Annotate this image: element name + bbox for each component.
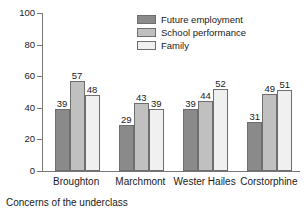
chart-legend: Future employmentSchool performanceFamil…: [137, 13, 297, 52]
y-axis-tick-mark: [37, 76, 42, 77]
bar[interactable]: 43: [134, 103, 149, 171]
x-axis-category-label: Wester Hailes: [174, 175, 236, 188]
x-axis-category-label: Corstorphine: [240, 175, 297, 188]
y-axis-tick-mark: [37, 139, 42, 140]
bar-value-label: 44: [200, 90, 211, 101]
y-axis-tick-label: 40: [24, 102, 35, 113]
y-axis-tick-mark: [37, 108, 42, 109]
legend-item[interactable]: Family: [137, 39, 297, 51]
bar[interactable]: 39: [55, 109, 70, 171]
bar-chart-figure: 020406080100 395748294339394452314951 Br…: [0, 0, 307, 216]
y-axis-tick-mark: [37, 171, 42, 172]
bar-value-label: 39: [151, 98, 162, 109]
legend-swatch: [137, 15, 156, 24]
bar-value-label: 29: [121, 114, 132, 125]
x-axis-line: [42, 171, 300, 172]
chart-caption: Concerns of the underclass: [6, 196, 128, 209]
y-axis-tick-label: 20: [24, 133, 35, 144]
bar-group: 395748: [55, 13, 100, 171]
legend-label: Future employment: [161, 14, 243, 25]
legend-item[interactable]: School performance: [137, 26, 297, 38]
bar[interactable]: 31: [247, 122, 262, 171]
legend-label: Family: [161, 40, 189, 51]
y-axis-tick-label: 100: [19, 7, 35, 18]
bar[interactable]: 52: [213, 89, 228, 171]
bar-value-label: 43: [136, 92, 147, 103]
bar-value-label: 39: [57, 98, 68, 109]
bar-value-label: 48: [87, 84, 98, 95]
y-axis-tick-mark: [37, 45, 42, 46]
y-axis-tick-mark: [37, 13, 42, 14]
y-axis-tick-label: 0: [30, 165, 35, 176]
y-axis-tick-label: 60: [24, 70, 35, 81]
bar-value-label: 57: [72, 70, 83, 81]
legend-item[interactable]: Future employment: [137, 13, 297, 25]
x-axis-category-labels: BroughtonMarchmontWester HailesCorstorph…: [42, 175, 300, 189]
bar[interactable]: 39: [149, 109, 164, 171]
legend-swatch: [137, 28, 156, 37]
bar[interactable]: 51: [277, 90, 292, 171]
x-axis-category-label: Broughton: [53, 175, 99, 188]
y-axis-tick-label: 80: [24, 39, 35, 50]
bar-value-label: 31: [250, 111, 261, 122]
bar[interactable]: 39: [183, 109, 198, 171]
legend-swatch: [137, 41, 156, 50]
bar[interactable]: 29: [119, 125, 134, 171]
bar-value-label: 39: [185, 98, 196, 109]
bar[interactable]: 48: [85, 95, 100, 171]
legend-label: School performance: [161, 27, 246, 38]
bar[interactable]: 44: [198, 101, 213, 171]
x-axis-category-label: Marchmont: [115, 175, 165, 188]
bar[interactable]: 57: [70, 81, 85, 171]
bar-value-label: 49: [265, 83, 276, 94]
bar[interactable]: 49: [262, 94, 277, 171]
bar-value-label: 52: [215, 78, 226, 89]
bar-value-label: 51: [280, 79, 291, 90]
